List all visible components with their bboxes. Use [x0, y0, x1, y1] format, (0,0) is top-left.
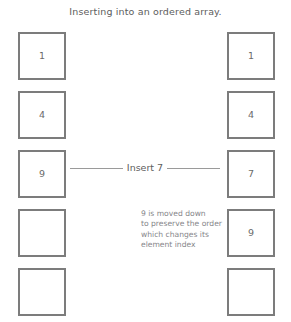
array-column-before: 1 4 9 [18, 32, 66, 316]
array-cell-value: 4 [39, 110, 45, 120]
array-cell-empty [227, 268, 275, 316]
array-cell-empty [18, 209, 66, 257]
array-cell-moved: 9 [227, 209, 275, 257]
annotation-line-3: which changes its [141, 230, 227, 240]
insert-label: Insert 7 [123, 163, 167, 173]
array-cell-value: 9 [39, 169, 45, 179]
array-cell: 9 [18, 150, 66, 198]
array-cell-value: 7 [248, 169, 254, 179]
array-cell: 1 [18, 32, 66, 80]
array-column-after: 1 4 7 9 [227, 32, 275, 316]
array-cell-empty [18, 268, 66, 316]
annotation-line-1: 9 is moved down [141, 209, 227, 219]
annotation-line-4: element index [141, 240, 227, 250]
array-cell-value: 1 [248, 51, 254, 61]
divider-line-right [167, 168, 220, 169]
array-cell: 4 [18, 91, 66, 139]
annotation-line-2: to preserve the order [141, 219, 227, 229]
array-cell-value: 1 [39, 51, 45, 61]
array-cell-value: 9 [248, 228, 254, 238]
array-cell: 4 [227, 91, 275, 139]
divider-line-left [70, 168, 123, 169]
insert-divider: Insert 7 [70, 161, 220, 175]
array-cell-value: 4 [248, 110, 254, 120]
array-cell: 1 [227, 32, 275, 80]
array-cell-inserted: 7 [227, 150, 275, 198]
annotation-text: 9 is moved down to preserve the order wh… [141, 209, 227, 251]
diagram-title: Inserting into an ordered array. [0, 6, 291, 17]
ordered-array-insertion-diagram: Inserting into an ordered array. 1 4 9 I… [0, 0, 291, 322]
